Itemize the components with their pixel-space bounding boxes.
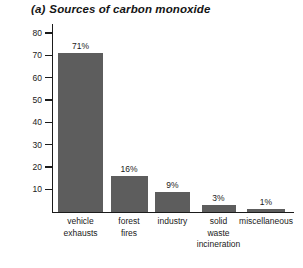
y-axis-tick-label: 70 <box>20 50 42 60</box>
x-axis-category-label: miscellaneous <box>236 216 296 228</box>
x-axis-category-label-line: miscellaneous <box>236 216 296 228</box>
y-axis-tick-label: 50 <box>20 95 42 105</box>
bar-value-label: 9% <box>166 180 178 190</box>
y-axis-tick-label-text: 60 <box>20 73 42 83</box>
bar <box>202 205 236 212</box>
chart-title-text: Sources of carbon monoxide <box>49 3 210 15</box>
y-axis-tick-label-text: 10 <box>20 184 42 194</box>
bar-value-label: 16% <box>120 164 137 174</box>
y-axis-tick <box>45 189 52 190</box>
bar <box>111 176 148 212</box>
y-axis-tick-label: 40 <box>20 117 42 127</box>
bar-value-label: 3% <box>212 193 224 203</box>
y-axis-tick-label: 10 <box>20 184 42 194</box>
bar <box>58 53 103 212</box>
y-axis-tick <box>45 99 52 100</box>
y-axis-tick-label-text: 80 <box>20 28 42 38</box>
chart-title: (a)Sources of carbon monoxide <box>31 3 210 15</box>
y-axis-tick <box>45 32 52 33</box>
bar <box>247 209 285 211</box>
y-axis-tick <box>45 122 52 123</box>
bar-value-label: 71% <box>72 41 89 51</box>
y-axis-tick-label: 30 <box>20 140 42 150</box>
y-axis-tick-label-text: 30 <box>20 140 42 150</box>
x-axis-category-label-line: fires <box>100 228 159 240</box>
y-axis-tick <box>45 77 52 78</box>
x-axis-category-label-line: incineration <box>191 239 247 251</box>
y-axis-tick-label-text: 40 <box>20 117 42 127</box>
bar <box>155 192 190 212</box>
y-axis-tick-label: 80 <box>20 28 42 38</box>
chart-figure: (a)Sources of carbon monoxide percentage… <box>0 0 303 268</box>
y-axis-tick-label-text: 50 <box>20 95 42 105</box>
x-axis-category-label-line: waste <box>191 228 247 240</box>
y-axis-tick-label: 60 <box>20 73 42 83</box>
bar-value-label: 1% <box>260 197 272 207</box>
y-axis-tick <box>45 55 52 56</box>
y-axis-tick <box>45 166 52 167</box>
chart-title-index: (a) <box>31 3 45 15</box>
y-axis-tick-label: 20 <box>20 162 42 172</box>
y-axis-tick-label-text: 70 <box>20 50 42 60</box>
y-axis-tick <box>45 144 52 145</box>
y-axis-tick-label-text: 20 <box>20 162 42 172</box>
